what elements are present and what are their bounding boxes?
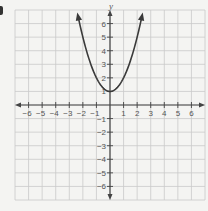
y-tick-label: 4	[102, 47, 107, 56]
y-axis-label: y	[108, 1, 113, 11]
x-tick-label: −5	[36, 109, 46, 118]
y-tick-label: −2	[97, 128, 107, 137]
x-tick-label: −6	[23, 109, 33, 118]
x-tick-label: 4	[162, 109, 167, 118]
y-tick-label: 6	[102, 20, 107, 29]
y-tick-label: −3	[97, 142, 107, 151]
x-tick-label: 5	[176, 109, 181, 118]
y-tick-label: −4	[97, 155, 107, 164]
x-tick-label: −3	[63, 109, 73, 118]
axes	[15, 10, 205, 200]
x-tick-label: 2	[135, 109, 140, 118]
parabola-chart: −6−5−4−3−2−1123456−6−5−4−3−2−1123456 y	[0, 0, 208, 211]
x-tick-label: 6	[189, 109, 194, 118]
x-tick-label: −4	[50, 109, 60, 118]
y-tick-label: 2	[102, 74, 107, 83]
y-tick-label: 5	[102, 33, 107, 42]
x-tick-label: 3	[148, 109, 153, 118]
y-tick-label: −1	[97, 115, 107, 124]
x-tick-label: −2	[77, 109, 87, 118]
y-tick-label: 3	[102, 60, 107, 69]
y-tick-label: −6	[97, 182, 107, 191]
x-tick-label: 1	[121, 109, 126, 118]
y-tick-label: −5	[97, 169, 107, 178]
